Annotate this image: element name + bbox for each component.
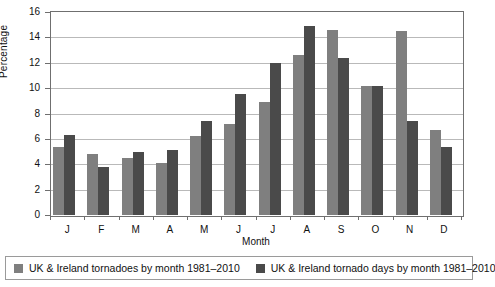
bar [122,158,133,215]
x-axis-tick-label: D [427,224,461,235]
bar [167,150,178,215]
y-axis-tick-label: 16 [10,7,40,17]
y-axis-ticks: 0246810121416 [0,0,50,215]
bar [201,121,212,215]
y-axis-tick-label: 4 [10,159,40,169]
bar-group [154,12,188,215]
bar [190,136,201,215]
bar [396,31,407,215]
x-axis-tick-label: J [50,224,84,235]
bar [327,30,338,215]
legend-item: UK & Ireland tornado days by month 1981–… [256,262,495,274]
x-axis-tick-mark [358,216,359,220]
y-axis-tick-label: 14 [10,32,40,42]
bar [304,26,315,215]
bar [64,135,75,215]
x-axis-tick-label: N [393,224,427,235]
y-axis-tick-label: 12 [10,58,40,68]
x-axis-tick-mark [221,216,222,220]
bar [430,130,441,215]
x-axis-tick-label: S [324,224,358,235]
y-axis-tick-label: 8 [10,109,40,119]
bar-group [85,12,119,215]
bar-group [51,12,85,215]
bar [224,124,235,215]
x-axis-tick-label: M [119,224,153,235]
chart-legend: UK & Ireland tornadoes by month 1981–201… [5,256,473,280]
x-axis-tick-mark [324,216,325,220]
x-axis-tick-label: A [153,224,187,235]
bar [235,94,246,215]
x-axis-tick-mark [461,216,462,220]
bar [338,58,349,215]
x-axis-title: Month [50,236,462,247]
legend-swatch-icon [256,264,265,273]
x-axis-tick-mark [187,216,188,220]
x-axis-tick-mark [256,216,257,220]
bar-group [120,12,154,215]
x-axis-tick-label: O [358,224,392,235]
bar [361,86,372,215]
y-axis-tick-label: 10 [10,83,40,93]
x-axis-tick-label: M [187,224,221,235]
y-axis-tick-label: 6 [10,134,40,144]
bar-group [188,12,222,215]
x-axis-tick-mark [393,216,394,220]
x-axis-tick-mark [119,216,120,220]
bar [293,55,304,215]
bar [87,154,98,215]
bar [441,147,452,216]
x-axis-tick-mark [50,216,51,220]
bar-group [359,12,393,215]
x-axis-tick-mark [427,216,428,220]
bar [270,63,281,215]
bar-group [428,12,462,215]
x-axis-tick-mark [290,216,291,220]
legend-item: UK & Ireland tornadoes by month 1981–201… [14,262,240,274]
bar-group [222,12,256,215]
y-axis-tick-label: 0 [10,210,40,220]
bar [98,167,109,215]
bar [259,102,270,215]
x-axis-tick-label: F [84,224,118,235]
legend-label: UK & Ireland tornado days by month 1981–… [271,262,495,274]
bar-group [394,12,428,215]
bar [53,147,64,216]
x-axis-tick-mark [153,216,154,220]
bar-group [257,12,291,215]
bar [156,163,167,215]
legend-swatch-icon [14,264,23,273]
bar-group [325,12,359,215]
bar [372,86,383,215]
x-axis-tick-label: A [290,224,324,235]
x-axis-tick-label: J [256,224,290,235]
y-axis-tick-label: 2 [10,185,40,195]
bar-group [291,12,325,215]
bars-layer [51,12,462,215]
bar [407,121,418,215]
x-axis-tick-label: J [221,224,255,235]
bar [133,152,144,215]
legend-label: UK & Ireland tornadoes by month 1981–201… [29,262,240,274]
x-axis-tick-mark [84,216,85,220]
